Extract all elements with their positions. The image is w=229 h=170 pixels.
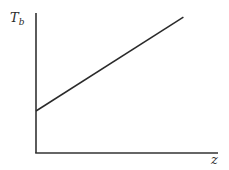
chart-figure: Tb z <box>0 0 229 170</box>
y-axis-label-main: T <box>10 10 19 25</box>
y-axis-label: Tb <box>10 11 24 27</box>
plot-area <box>0 0 229 170</box>
data-line <box>36 17 183 111</box>
x-axis-label: z <box>211 153 218 166</box>
y-axis-label-subscript: b <box>19 17 25 27</box>
